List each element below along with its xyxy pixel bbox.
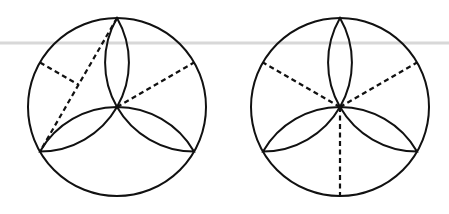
right-petal-lower-left bbox=[263, 107, 340, 152]
right-figure bbox=[251, 18, 429, 196]
right-petal-lower-right bbox=[340, 107, 417, 152]
left-petal-top bbox=[105, 18, 129, 107]
left-petal-lower-right bbox=[117, 107, 194, 152]
left-dashed-chord bbox=[40, 18, 117, 152]
left-dashed-perpendicular bbox=[40, 63, 79, 85]
right-petal-top bbox=[328, 18, 352, 107]
diagram-canvas bbox=[0, 0, 449, 214]
left-figure bbox=[28, 18, 206, 196]
left-petal-lower-left bbox=[40, 107, 117, 152]
